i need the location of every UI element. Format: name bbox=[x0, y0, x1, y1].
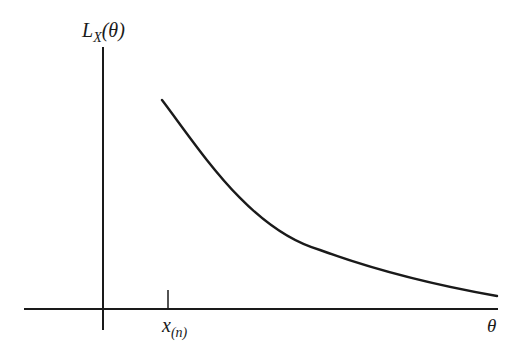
y-axis-label: LX(θ) bbox=[81, 19, 125, 45]
likelihood-plot: LX(θ) x(n) θ bbox=[0, 0, 526, 354]
likelihood-curve bbox=[162, 100, 497, 296]
x-tick-label: x(n) bbox=[161, 314, 188, 341]
x-axis-label: θ bbox=[487, 315, 496, 336]
